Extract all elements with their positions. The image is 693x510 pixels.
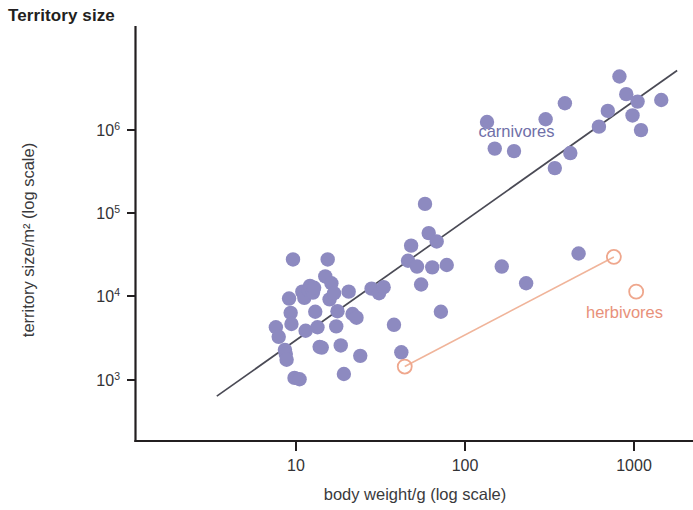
data-point-carnivores [282,291,296,305]
data-point-carnivores [425,260,439,274]
data-point-carnivores [601,104,615,118]
data-point-carnivores [376,280,390,294]
data-point-carnivores [284,317,298,331]
data-point-carnivores [418,197,432,211]
data-point-carnivores [307,281,321,295]
scatter-plot: 106 105 104 103 10 100 1000 body weight/… [0,0,693,510]
series-label-herbivores: herbivores [586,303,663,321]
data-point-carnivores [592,119,606,133]
data-point-carnivores [279,353,293,367]
data-point-carnivores [292,372,306,386]
data-point-carnivores [327,286,341,300]
data-point-carnivores [330,304,344,318]
data-point-carnivores [387,318,401,332]
series-label-carnivores: carnivores [478,122,554,140]
y-tick-label-1e6: 106 [96,120,120,139]
data-point-carnivores [394,345,408,359]
data-point-carnivores [630,94,644,108]
y-tick-labels: 106 105 104 103 [96,120,120,389]
data-point-carnivores [571,246,585,260]
x-tick-label-1000: 1000 [616,457,652,474]
data-point-carnivores [341,284,355,298]
territory-size-figure: Territory size 106 105 104 [0,0,693,510]
y-tick-label-1e3: 103 [96,370,120,389]
x-tick-marks [296,441,634,451]
data-points [269,69,669,386]
data-point-carnivores [625,108,639,122]
data-point-carnivores [440,258,454,272]
data-point-carnivores [353,349,367,363]
data-point-carnivores [414,277,428,291]
data-point-carnivores [271,330,285,344]
y-tick-label-1e5: 105 [96,203,120,222]
data-point-carnivores [320,252,334,266]
y-tick-label-1e4: 104 [96,286,120,305]
x-tick-labels: 10 100 1000 [287,457,652,474]
data-point-carnivores [308,305,322,319]
x-tick-label-100: 100 [452,457,479,474]
x-axis-title: body weight/g (log scale) [324,485,507,503]
data-point-carnivores [334,338,348,352]
data-point-carnivores [495,259,509,273]
x-tick-label-10: 10 [287,457,305,474]
axes [134,26,693,442]
data-point-carnivores [548,161,562,175]
data-point-carnivores [634,123,648,137]
data-point-carnivores [507,144,521,158]
data-point-carnivores [286,252,300,266]
data-point-carnivores [315,340,329,354]
data-point-carnivores [349,310,363,324]
data-point-carnivores [329,319,343,333]
data-point-carnivores [434,305,448,319]
y-axis-title: territory size/m² (log scale) [19,143,37,337]
data-point-carnivores [310,320,324,334]
data-point-carnivores [612,69,626,83]
data-point-carnivores [563,146,577,160]
data-point-carnivores [519,276,533,290]
data-point-carnivores [558,96,572,110]
data-point-carnivores [654,93,668,107]
data-point-carnivores [404,238,418,252]
data-point-carnivores [410,259,424,273]
data-point-carnivores [337,367,351,381]
data-point-herbivores [629,285,643,299]
data-point-carnivores [429,234,443,248]
data-point-carnivores [488,141,502,155]
